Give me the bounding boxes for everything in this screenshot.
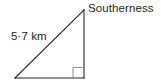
hypotenuse-length-label: 5·7 km	[11, 31, 47, 43]
right-angle-marker-icon	[73, 68, 84, 78]
vertex-label-southerness: Southerness	[88, 3, 154, 15]
triangle-diagram: Southerness 5·7 km	[0, 0, 161, 83]
